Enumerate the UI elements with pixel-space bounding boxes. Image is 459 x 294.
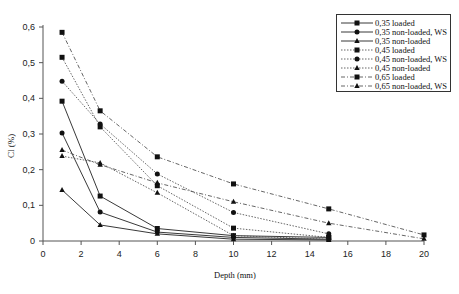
legend-item: 0,65 non-loaded, WS bbox=[337, 80, 450, 92]
y-tick-label: 0,1 bbox=[22, 200, 35, 210]
y-tick-label: 0 bbox=[30, 236, 35, 246]
y-tick-label: 0,4 bbox=[22, 93, 35, 103]
y-tick-label: 0,3 bbox=[22, 129, 35, 139]
x-tick-label: 20 bbox=[419, 249, 429, 259]
x-tick-label: 2 bbox=[79, 249, 84, 259]
x-tick-label: 4 bbox=[117, 249, 122, 259]
x-axis-label: Depth (mm) bbox=[214, 270, 256, 280]
y-axis-label: Cl (%) bbox=[6, 134, 16, 158]
series-line bbox=[60, 99, 332, 240]
chart-legend: 0,35 loaded 0,35 non-loaded, WS 0,35 non… bbox=[336, 14, 451, 92]
x-tick-label: 8 bbox=[193, 249, 198, 259]
x-tick-label: 10 bbox=[228, 249, 238, 259]
x-tick-label: 16 bbox=[343, 249, 353, 259]
x-tick-label: 6 bbox=[155, 249, 160, 259]
y-tick-label: 0,6 bbox=[22, 22, 35, 32]
x-tick-label: 14 bbox=[305, 249, 315, 259]
legend-triangle-dashdot-icon bbox=[341, 80, 373, 92]
y-tick-label: 0,5 bbox=[22, 58, 35, 68]
y-tick-label: 0,2 bbox=[22, 165, 35, 175]
x-tick-label: 12 bbox=[267, 249, 277, 259]
x-tick-label: 0 bbox=[40, 249, 45, 259]
x-tick-label: 18 bbox=[381, 249, 391, 259]
